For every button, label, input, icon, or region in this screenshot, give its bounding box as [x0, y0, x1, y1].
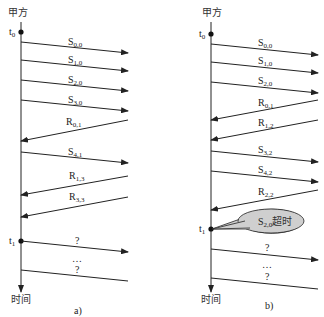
message-label: ?: [265, 242, 270, 253]
message-label: S1,0: [258, 55, 273, 68]
message-label: S2,0: [258, 75, 273, 88]
ack-label: R2,2: [258, 186, 274, 199]
t0-label: t0: [199, 28, 206, 41]
message-label: ?: [75, 235, 80, 246]
sender-label: 甲方: [202, 6, 222, 18]
diagram-b: 甲方 t0 t1 S0,0 S1,0 S2,0 R0,1 R1,2 S3,2 S…: [199, 6, 318, 312]
message-label: ?: [75, 264, 80, 275]
timeout-callout: S2,0超时: [212, 209, 304, 233]
t0-marker: [208, 31, 213, 36]
message-label: S3,2: [258, 144, 273, 157]
time-label: 时间: [11, 293, 31, 305]
ack-label: R3,3: [69, 191, 85, 204]
ack-label: R1,2: [258, 117, 274, 130]
t0-label: t0: [9, 26, 16, 39]
ack-label: R0,1: [66, 116, 82, 129]
ellipsis: …: [262, 259, 272, 270]
t1-label: t1: [9, 235, 16, 248]
message-label: S4,2: [258, 164, 273, 177]
t1-label: t1: [199, 223, 206, 236]
diagram-a: 甲方 t0 t1 S0,0 S1,0 S2,0 S3,0 R0,1 S4,1 R…: [8, 6, 128, 317]
caption: a): [74, 305, 82, 317]
t0-marker: [18, 29, 23, 34]
ack-label: R1,3: [69, 170, 85, 183]
callout-text: S2,0超时: [258, 215, 292, 229]
ack-label: R0,1: [258, 97, 274, 110]
ellipsis: …: [72, 253, 82, 264]
message-label: S0,0: [258, 37, 273, 50]
message-label: ?: [265, 271, 270, 282]
sender-label: 甲方: [8, 6, 28, 18]
sliding-window-diagrams: 甲方 t0 t1 S0,0 S1,0 S2,0 S3,0 R0,1 S4,1 R…: [0, 0, 324, 317]
caption: b): [265, 300, 273, 312]
time-label: 时间: [201, 293, 221, 305]
